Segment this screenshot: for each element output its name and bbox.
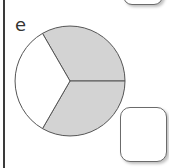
- answer-box[interactable]: [120, 107, 167, 162]
